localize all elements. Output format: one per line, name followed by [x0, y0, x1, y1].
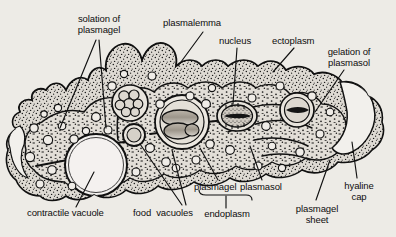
label-nucleus: nucleus — [219, 36, 251, 47]
food-vacuole-cluster — [112, 85, 148, 121]
label-solation-of-plasmagel: solation of plasmagel — [66, 14, 132, 35]
label-plasmagel-sheet: plasmagel sheet — [287, 204, 347, 225]
label-plasmagel: plasmagel — [194, 182, 236, 193]
label-gelation-of-plasmasol: gelation of plasmasol — [314, 47, 384, 68]
label-contractile-vacuole: contractile vacuole — [27, 208, 104, 219]
label-endoplasm: endoplasm — [196, 209, 258, 220]
label-plasmasol: plasmasol — [240, 182, 282, 193]
nucleus-organelle — [217, 101, 257, 131]
label-food-vacuoles: food vacuoles — [133, 208, 193, 219]
label-hyaline-cap: hyaline cap — [337, 181, 381, 202]
label-ectoplasm: ectoplasm — [272, 36, 314, 47]
food-vacuole-small — [123, 124, 145, 146]
label-plasmalemma: plasmalemma — [163, 18, 221, 29]
